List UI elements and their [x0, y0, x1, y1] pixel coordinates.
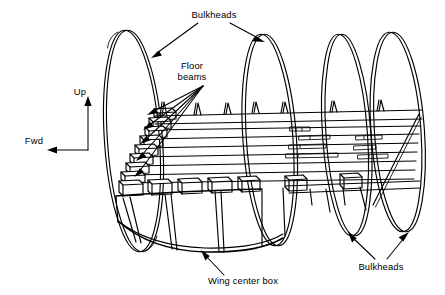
axis-label-fwd: Fwd: [25, 135, 43, 146]
callout-wing-center-box: Wing center box: [201, 250, 278, 286]
label-floor-beams-line2: beams: [178, 71, 207, 82]
label-wing-center-box: Wing center box: [208, 275, 278, 286]
bulkhead-ring-1: [97, 28, 170, 253]
figure-canvas: Up Fwd Bulkheads Floor beams: [0, 0, 445, 295]
axis-label-up: Up: [74, 86, 86, 97]
lower-structure-right: [285, 181, 420, 212]
callout-floor-beams: Floor beams: [134, 60, 207, 177]
label-floor-beams-line1: Floor: [181, 60, 203, 71]
wing-center-box-shell: [116, 188, 285, 252]
bulkhead-ring-4: [364, 30, 431, 233]
label-bulkheads-bottom: Bulkheads: [358, 261, 403, 272]
label-bulkheads-top: Bulkheads: [191, 9, 236, 20]
callout-bulkheads-top: Bulkheads: [151, 9, 265, 58]
fuselage-structure-figure: Up Fwd Bulkheads Floor beams: [0, 0, 445, 295]
bulkhead-ring-2: [236, 33, 304, 248]
callout-bulkheads-bottom: Bulkheads: [348, 232, 409, 272]
orientation-axis-indicator: Up Fwd: [25, 86, 92, 154]
